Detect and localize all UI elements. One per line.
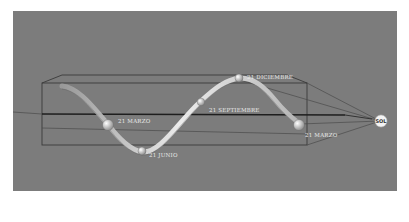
ecliptic-line — [42, 114, 345, 115]
earth-september: 21 SEPTIEMBRE — [197, 98, 259, 113]
earth-march-end: 21 MARZO — [294, 120, 338, 139]
svg-text:21 MARZO: 21 MARZO — [118, 118, 151, 124]
sun-icon: SOL — [375, 115, 387, 127]
svg-text:21 JUNIO: 21 JUNIO — [149, 152, 178, 159]
earth-march-start: 21 MARZO — [103, 118, 151, 131]
orbital-plane-box — [42, 75, 307, 145]
svg-text:SOL: SOL — [375, 118, 387, 124]
svg-text:21 SEPTIEMBRE: 21 SEPTIEMBRE — [209, 107, 260, 113]
orbit-diagram: 21 MARZO 21 JUNIO 21 SEPTIEMBRE 21 DICIE… — [0, 0, 409, 222]
svg-text:21 MARZO: 21 MARZO — [305, 132, 338, 138]
svg-text:21 DICIEMBRE: 21 DICIEMBRE — [247, 74, 293, 80]
